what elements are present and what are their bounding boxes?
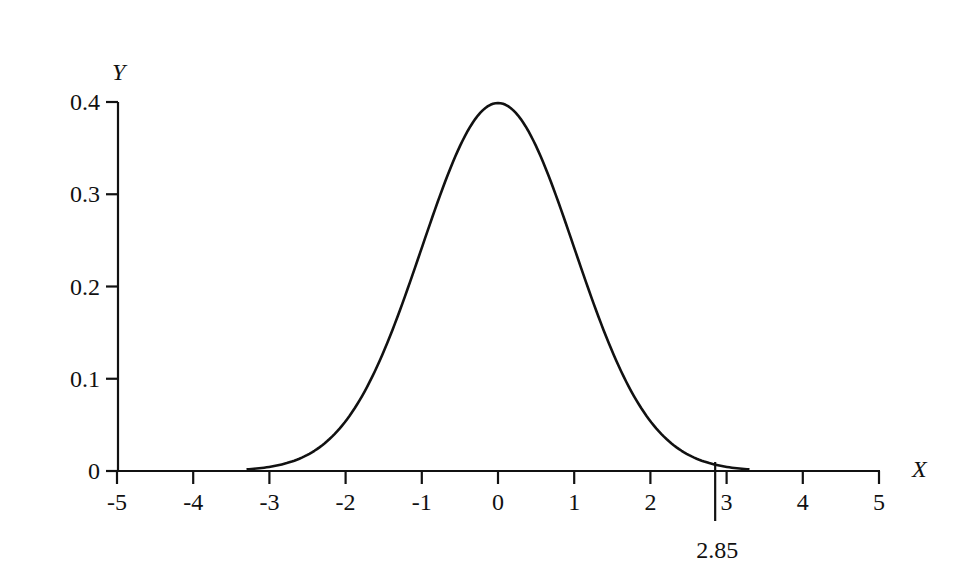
x-tick-label: -5	[107, 489, 127, 515]
x-tick-label: 2	[644, 489, 656, 515]
x-tick-label: 3	[721, 489, 733, 515]
axes	[117, 102, 880, 471]
y-axis-label: Y	[112, 59, 128, 85]
y-tick-label: 0	[88, 458, 100, 484]
y-tick-label: 0.2	[70, 274, 100, 300]
x-tick-label: 0	[492, 489, 504, 515]
x-tick-label: 1	[568, 489, 580, 515]
x-tick-label: 4	[797, 489, 809, 515]
y-tick-label: 0.3	[70, 181, 100, 207]
x-tick-label: -1	[412, 489, 432, 515]
x-tick-label: -2	[336, 489, 356, 515]
normal-distribution-chart: 00.10.20.30.4 -5-4-3-2-1012345 2.85 Y X	[0, 0, 979, 587]
y-tick-label: 0.4	[70, 89, 100, 115]
x-ticks: -5-4-3-2-1012345	[107, 471, 885, 515]
x-tick-label: -3	[259, 489, 279, 515]
x-tick-label: 5	[873, 489, 885, 515]
density-curve	[247, 103, 750, 469]
y-tick-label: 0.1	[70, 366, 100, 392]
critical-value-label: 2.85	[696, 537, 738, 563]
y-ticks: 00.10.20.30.4	[70, 89, 118, 484]
x-axis-label: X	[911, 456, 928, 482]
x-tick-label: -4	[183, 489, 203, 515]
